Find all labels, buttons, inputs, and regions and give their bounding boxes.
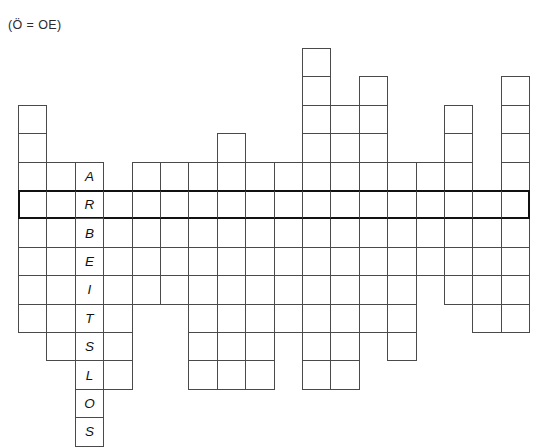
- grid-cell-letter[interactable]: L: [75, 360, 104, 389]
- grid-cell-letter[interactable]: T: [75, 304, 104, 333]
- grid-cell-empty[interactable]: [18, 247, 47, 276]
- grid-cell-empty[interactable]: [46, 247, 75, 276]
- grid-cell-empty[interactable]: [132, 162, 161, 191]
- grid-cell-empty[interactable]: [245, 218, 274, 247]
- grid-cell-empty[interactable]: [444, 247, 473, 276]
- grid-cell-empty[interactable]: [330, 332, 359, 361]
- grid-cell-empty[interactable]: [302, 247, 331, 276]
- grid-cell-empty[interactable]: [245, 275, 274, 304]
- grid-cell-empty[interactable]: [359, 275, 388, 304]
- grid-cell-empty[interactable]: [387, 332, 416, 361]
- grid-cell-empty[interactable]: [416, 162, 445, 191]
- grid-cell-empty[interactable]: [330, 360, 359, 389]
- grid-cell-empty[interactable]: [302, 133, 331, 162]
- grid-cell-empty[interactable]: [103, 304, 132, 333]
- grid-cell-empty[interactable]: [188, 190, 217, 219]
- grid-cell-empty[interactable]: [387, 218, 416, 247]
- grid-cell-empty[interactable]: [46, 190, 75, 219]
- grid-cell-empty[interactable]: [132, 218, 161, 247]
- grid-cell-empty[interactable]: [46, 275, 75, 304]
- grid-cell-empty[interactable]: [217, 190, 246, 219]
- grid-cell-empty[interactable]: [188, 218, 217, 247]
- grid-cell-empty[interactable]: [501, 304, 530, 333]
- grid-cell-empty[interactable]: [416, 218, 445, 247]
- grid-cell-empty[interactable]: [274, 275, 303, 304]
- grid-cell-empty[interactable]: [387, 275, 416, 304]
- grid-cell-empty[interactable]: [472, 190, 501, 219]
- grid-cell-empty[interactable]: [46, 332, 75, 361]
- grid-cell-empty[interactable]: [387, 247, 416, 276]
- grid-cell-empty[interactable]: [501, 105, 530, 134]
- grid-cell-letter[interactable]: E: [75, 247, 104, 276]
- grid-cell-empty[interactable]: [132, 190, 161, 219]
- grid-cell-empty[interactable]: [46, 162, 75, 191]
- grid-cell-empty[interactable]: [501, 247, 530, 276]
- grid-cell-empty[interactable]: [103, 275, 132, 304]
- grid-cell-empty[interactable]: [302, 275, 331, 304]
- grid-cell-empty[interactable]: [302, 218, 331, 247]
- grid-cell-empty[interactable]: [330, 304, 359, 333]
- grid-cell-letter[interactable]: O: [75, 389, 104, 418]
- grid-cell-empty[interactable]: [501, 162, 530, 191]
- grid-cell-empty[interactable]: [217, 162, 246, 191]
- grid-cell-empty[interactable]: [217, 247, 246, 276]
- grid-cell-empty[interactable]: [444, 105, 473, 134]
- grid-cell-empty[interactable]: [46, 304, 75, 333]
- grid-cell-letter[interactable]: A: [75, 162, 104, 191]
- grid-cell-empty[interactable]: [18, 190, 47, 219]
- grid-cell-empty[interactable]: [302, 332, 331, 361]
- grid-cell-empty[interactable]: [188, 247, 217, 276]
- grid-cell-empty[interactable]: [103, 190, 132, 219]
- grid-cell-empty[interactable]: [217, 275, 246, 304]
- grid-cell-empty[interactable]: [387, 190, 416, 219]
- grid-cell-empty[interactable]: [501, 76, 530, 105]
- grid-cell-empty[interactable]: [416, 247, 445, 276]
- grid-cell-empty[interactable]: [444, 162, 473, 191]
- grid-cell-empty[interactable]: [359, 304, 388, 333]
- grid-cell-empty[interactable]: [472, 218, 501, 247]
- grid-cell-empty[interactable]: [472, 275, 501, 304]
- grid-cell-empty[interactable]: [46, 218, 75, 247]
- grid-cell-empty[interactable]: [103, 218, 132, 247]
- grid-cell-empty[interactable]: [18, 218, 47, 247]
- grid-cell-empty[interactable]: [274, 304, 303, 333]
- grid-cell-empty[interactable]: [444, 275, 473, 304]
- grid-cell-empty[interactable]: [330, 162, 359, 191]
- grid-cell-empty[interactable]: [359, 76, 388, 105]
- grid-cell-empty[interactable]: [274, 247, 303, 276]
- grid-cell-empty[interactable]: [103, 360, 132, 389]
- grid-cell-empty[interactable]: [217, 360, 246, 389]
- grid-cell-empty[interactable]: [359, 105, 388, 134]
- grid-cell-empty[interactable]: [359, 247, 388, 276]
- grid-cell-empty[interactable]: [103, 332, 132, 361]
- grid-cell-empty[interactable]: [217, 133, 246, 162]
- grid-cell-empty[interactable]: [18, 133, 47, 162]
- grid-cell-empty[interactable]: [501, 133, 530, 162]
- grid-cell-empty[interactable]: [330, 218, 359, 247]
- grid-cell-empty[interactable]: [302, 304, 331, 333]
- grid-cell-empty[interactable]: [188, 275, 217, 304]
- grid-cell-empty[interactable]: [245, 247, 274, 276]
- grid-cell-empty[interactable]: [302, 48, 331, 77]
- grid-cell-empty[interactable]: [302, 190, 331, 219]
- grid-cell-empty[interactable]: [103, 247, 132, 276]
- grid-cell-empty[interactable]: [302, 105, 331, 134]
- grid-cell-letter[interactable]: R: [75, 190, 104, 219]
- grid-cell-empty[interactable]: [387, 304, 416, 333]
- grid-cell-empty[interactable]: [188, 360, 217, 389]
- grid-cell-empty[interactable]: [444, 190, 473, 219]
- grid-cell-empty[interactable]: [188, 162, 217, 191]
- grid-cell-empty[interactable]: [302, 360, 331, 389]
- grid-cell-empty[interactable]: [330, 190, 359, 219]
- grid-cell-empty[interactable]: [416, 190, 445, 219]
- grid-cell-empty[interactable]: [472, 247, 501, 276]
- grid-cell-empty[interactable]: [302, 162, 331, 191]
- grid-cell-empty[interactable]: [160, 275, 189, 304]
- grid-cell-empty[interactable]: [330, 105, 359, 134]
- grid-cell-empty[interactable]: [245, 304, 274, 333]
- grid-cell-empty[interactable]: [217, 304, 246, 333]
- grid-cell-empty[interactable]: [444, 218, 473, 247]
- grid-cell-empty[interactable]: [245, 332, 274, 361]
- grid-cell-empty[interactable]: [160, 190, 189, 219]
